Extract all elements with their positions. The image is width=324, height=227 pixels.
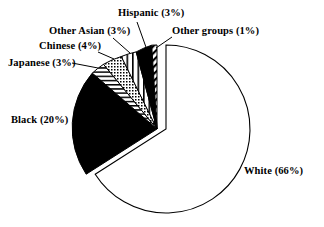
slice-label-japanese: Japanese (3%) [8,58,76,69]
pie-chart-figure: Hispanic (3%) Other Asian (3%) Chinese (… [0,0,324,227]
slice-label-black: Black (20%) [11,115,68,126]
leader-line-other-asian [113,38,130,53]
slice-label-hispanic: Hispanic (3%) [118,8,184,19]
slice-label-other-asian: Other Asian (3%) [49,26,130,37]
slice-label-other-groups: Other groups (1%) [172,26,259,37]
leader-line-hispanic [137,22,147,50]
slice-label-white: White (66%) [244,166,303,177]
leader-line-chinese [98,52,114,59]
slice-label-chinese: Chinese (4%) [39,41,101,52]
